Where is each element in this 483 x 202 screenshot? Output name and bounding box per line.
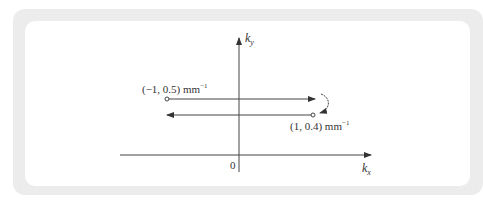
point-start-marker	[165, 97, 169, 101]
point-end-label: (1, 0.4) mm−1	[290, 119, 350, 133]
point-end-marker	[311, 113, 315, 117]
point-start-label: (−1, 0.5) mm−1	[142, 82, 208, 96]
curved-arrow	[320, 94, 328, 113]
origin-label: 0	[230, 159, 236, 171]
kx-axis-label: kx	[362, 161, 371, 177]
ky-axis-label: ky	[245, 31, 254, 47]
